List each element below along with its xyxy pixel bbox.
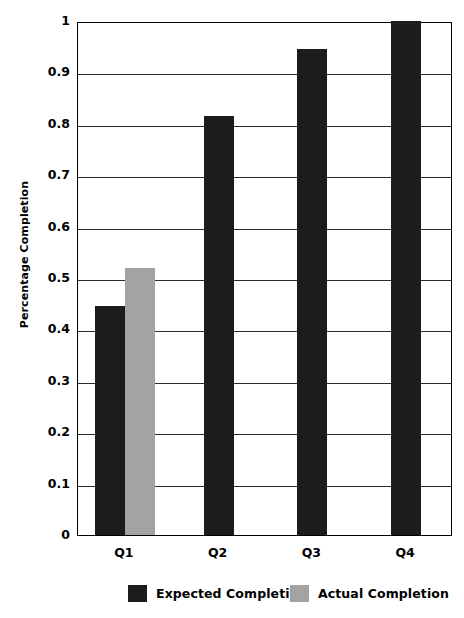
y-axis-tick-label: 0.8 [48,116,70,131]
legend-item: Expected Completion [128,583,307,603]
y-axis-tick-label: 0.7 [48,167,70,182]
y-axis-tick-label: 0.1 [48,476,70,491]
y-axis-tick-label: 0 [61,527,70,542]
y-axis-tick-label: 0.5 [48,270,70,285]
y-axis-tick-label: 0.3 [48,373,70,388]
chart-legend: Expected CompletionActual Completion [0,583,464,607]
bar [391,21,421,535]
y-axis-tick-label: 1 [61,13,70,28]
bar [297,49,327,535]
y-axis-tick-label: 0.6 [48,219,70,234]
x-axis-tick-label: Q1 [77,545,171,560]
bar [204,116,234,535]
y-axis-tick-label: 0.9 [48,64,70,79]
x-axis-tick-label: Q2 [171,545,265,560]
legend-label: Actual Completion [318,586,449,601]
y-axis-tick-label: 0.4 [48,321,70,336]
plot-area [77,22,452,536]
legend-swatch-icon [290,585,309,602]
bar [95,306,125,535]
y-axis-tick-label: 0.2 [48,424,70,439]
y-axis-tick-labels: 00.10.20.30.40.50.60.70.80.91 [0,0,70,618]
bar-chart: Percentage Completion 00.10.20.30.40.50.… [0,0,464,618]
legend-item: Actual Completion [290,583,449,603]
x-axis-tick-label: Q4 [358,545,452,560]
x-axis-tick-label: Q3 [265,545,359,560]
legend-label: Expected Completion [156,586,307,601]
legend-swatch-icon [128,585,147,602]
bar [125,268,155,535]
